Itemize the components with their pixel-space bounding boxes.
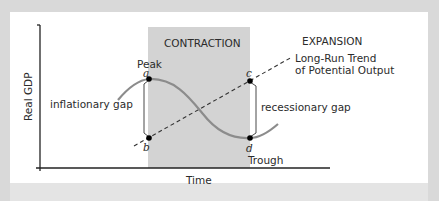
inflationary-gap-label: inflationary gap [50, 98, 133, 110]
x-axis-label: Time [185, 174, 212, 186]
business-cycle-diagram: CONTRACTION EXPANSION Long-Run Trend of … [0, 0, 439, 201]
point-d [247, 135, 253, 141]
point-a-label: a [143, 67, 149, 79]
expansion-label: EXPANSION [302, 35, 362, 47]
point-b-label: b [143, 141, 150, 153]
recessionary-gap-label: recessionary gap [261, 101, 351, 113]
trend-label-line2: of Potential Output [295, 64, 394, 76]
point-c-label: c [246, 67, 252, 79]
recessionary-gap-bracket [250, 82, 256, 137]
y-axis-label: Real GDP [22, 72, 34, 121]
contraction-label: CONTRACTION [164, 37, 241, 49]
trough-label: Trough [247, 154, 283, 166]
point-d-label: d [246, 142, 253, 154]
point-c [247, 78, 253, 84]
peak-label: Peak [137, 58, 163, 70]
trend-label-line1: Long-Run Trend [295, 52, 376, 64]
point-b [146, 135, 152, 141]
